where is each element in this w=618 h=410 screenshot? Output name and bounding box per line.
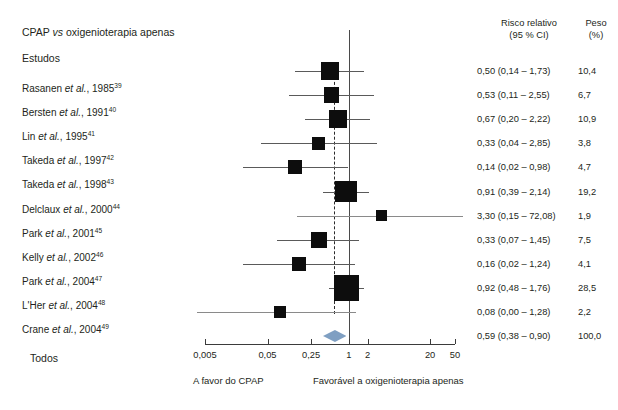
study-author: Park	[22, 228, 43, 239]
study-etal: et al.	[38, 131, 60, 142]
study-weight-marker	[311, 232, 327, 248]
study-etal: et al.	[45, 276, 67, 287]
study-label: Delclaux et al., 200044	[22, 205, 120, 215]
column-header-weight: Peso (%)	[578, 18, 614, 41]
weight-value: 6,7	[578, 90, 614, 100]
study-reference: 41	[88, 130, 95, 137]
study-etal: et al.	[48, 300, 70, 311]
study-year: 1985	[92, 83, 114, 94]
study-reference: 45	[95, 226, 102, 233]
study-weight-marker	[321, 62, 339, 80]
study-label: Takeda et al., 199843	[22, 180, 114, 190]
study-label: Takeda et al., 199742	[22, 156, 114, 166]
column-header-weight-line1: Peso	[578, 18, 614, 30]
study-weight-marker	[329, 110, 347, 128]
weight-value: 7,5	[578, 235, 614, 245]
study-author: L'Her	[22, 300, 46, 311]
weight-value: 10,4	[578, 66, 614, 76]
weight-value: 28,5	[578, 283, 614, 293]
study-reference: 48	[98, 299, 105, 306]
study-etal: et al.	[65, 83, 87, 94]
pooled-weight-value: 100,0	[578, 331, 614, 341]
x-axis-tick	[455, 339, 456, 344]
study-etal: et al.	[63, 204, 85, 215]
page-title-vs: vs	[53, 26, 64, 38]
pooled-row-label: Todos	[30, 352, 58, 364]
pooled-risk-ratio-value: 0,59 (0,38 – 0,90)	[477, 331, 581, 341]
study-author: Takeda	[22, 155, 54, 166]
risk-ratio-value: 0,91 (0,39 – 2,14)	[477, 187, 581, 197]
weight-value: 2,2	[578, 307, 614, 317]
x-axis-tick	[268, 339, 269, 344]
study-etal: et al.	[57, 179, 79, 190]
axis-note-right: Favorável a oxigenioterapia apenas	[313, 375, 464, 386]
x-axis-tick-label: 50	[425, 350, 485, 360]
x-axis-tick	[349, 339, 350, 344]
study-weight-marker	[324, 87, 340, 103]
risk-ratio-value: 0,50 (0,14 – 1,73)	[477, 66, 581, 76]
study-year: 1997	[84, 155, 106, 166]
study-reference: 46	[96, 250, 103, 257]
study-author: Crane	[22, 324, 49, 335]
study-weight-marker	[335, 181, 357, 203]
study-author: Rasanen	[22, 83, 62, 94]
study-year: 2004	[79, 324, 101, 335]
study-year: 2004	[76, 300, 98, 311]
study-reference: 47	[95, 274, 102, 281]
risk-ratio-value: 3,30 (0,15 – 72,08)	[477, 211, 581, 221]
column-header-risk-ratio: Risco relativo (95 % CI)	[477, 18, 581, 41]
study-weight-marker	[376, 210, 387, 221]
x-axis-tick-label: 2	[338, 350, 398, 360]
column-header-weight-line2: (%)	[578, 30, 614, 42]
risk-ratio-value: 0,33 (0,04 – 2,85)	[477, 138, 581, 148]
study-author: Takeda	[22, 179, 54, 190]
study-label: Lin et al., 199541	[22, 132, 95, 142]
risk-ratio-value: 0,16 (0,02 – 1,24)	[477, 259, 581, 269]
x-axis-tick	[368, 339, 369, 344]
weight-value: 4,1	[578, 259, 614, 269]
x-axis-tick	[205, 339, 206, 344]
study-label: Crane et al., 200449	[22, 325, 109, 335]
study-author: Lin	[22, 131, 35, 142]
axis-note-left: A favor do CPAP	[193, 375, 264, 386]
weight-value: 4,7	[578, 162, 614, 172]
study-author: Delclaux	[22, 204, 60, 215]
study-year: 1991	[87, 107, 109, 118]
weight-value: 1,9	[578, 211, 614, 221]
study-author: Bersten	[22, 107, 56, 118]
study-reference: 42	[107, 154, 114, 161]
study-etal: et al.	[57, 155, 79, 166]
study-reference: 40	[109, 106, 116, 113]
study-year: 1995	[65, 131, 87, 142]
study-reference: 39	[114, 82, 121, 89]
study-weight-marker	[292, 257, 305, 270]
study-weight-marker	[274, 306, 286, 318]
study-label: L'Her et al., 200448	[22, 301, 105, 311]
study-weight-marker	[312, 137, 325, 150]
x-axis-tick-label: 0,005	[175, 350, 235, 360]
study-year: 2001	[73, 228, 95, 239]
study-label: Bersten et al., 199140	[22, 108, 116, 118]
risk-ratio-value: 0,33 (0,07 – 1,45)	[477, 235, 581, 245]
study-etal: et al.	[46, 252, 68, 263]
risk-ratio-value: 0,53 (0,11 – 2,55)	[477, 90, 581, 100]
study-reference: 43	[107, 178, 114, 185]
page-title: CPAP vs oxigenioterapia apenas	[22, 26, 175, 38]
study-etal: et al.	[52, 324, 74, 335]
page-title-rest: oxigenioterapia apenas	[66, 26, 175, 38]
study-year: 2004	[73, 276, 95, 287]
risk-ratio-value: 0,67 (0,20 – 2,22)	[477, 114, 581, 124]
column-header-studies: Estudos	[22, 52, 60, 64]
study-author: Park	[22, 276, 43, 287]
study-etal: et al.	[45, 228, 67, 239]
study-reference: 44	[113, 202, 120, 209]
risk-ratio-value: 0,08 (0,00 – 1,28)	[477, 307, 581, 317]
risk-ratio-value: 0,14 (0,02 – 0,98)	[477, 162, 581, 172]
study-label: Park et al., 200145	[22, 229, 102, 239]
x-axis-tick	[311, 339, 312, 344]
study-weight-marker	[334, 275, 359, 300]
study-label: Kelly et al., 200246	[22, 253, 103, 263]
weight-value: 3,8	[578, 138, 614, 148]
study-reference: 49	[102, 323, 109, 330]
study-etal: et al.	[59, 107, 81, 118]
